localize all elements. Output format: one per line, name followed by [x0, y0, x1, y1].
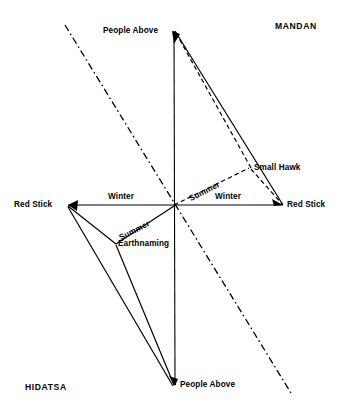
node-label-people-above-bottom: People Above	[180, 381, 235, 389]
group-label-hidatsa: HIDATSA	[25, 383, 67, 392]
edge-moiety-division-axis	[65, 25, 291, 393]
edge-vertical-axis	[174, 31, 175, 385]
node-label-earthnaming: Earthnaming	[118, 240, 169, 248]
node-label-small-hawk: Small Hawk	[254, 164, 301, 172]
node-label-red-stick-left: Red Stick	[14, 201, 52, 209]
edge-people-above-top-to-small-hawk	[176, 33, 251, 168]
edge-people-above-top-to-red-stick-right	[175, 31, 283, 205]
edge-earthnaming-to-people-above-bottom	[116, 245, 174, 385]
season-label-winter-left: Winter	[108, 193, 134, 201]
edge-small-hawk-to-red-stick-right	[251, 169, 282, 204]
edge-red-stick-left-to-earthnaming	[68, 206, 116, 244]
group-label-mandan: MANDAN	[275, 22, 317, 31]
node-label-red-stick-right: Red Stick	[287, 201, 325, 209]
node-label-people-above-top: People Above	[103, 27, 158, 35]
season-label-winter-right: Winter	[215, 193, 241, 201]
diagram-canvas: MANDAN HIDATSA People Above Red Stick Re…	[0, 0, 349, 415]
